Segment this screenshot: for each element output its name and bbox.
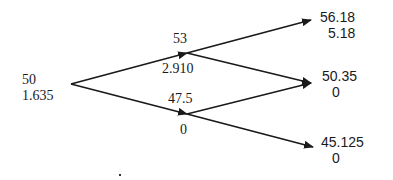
root-value: 1.635 [22, 89, 54, 103]
downdown-price: 45.125 [321, 135, 364, 149]
down-value: 0 [180, 123, 187, 137]
edge-down-downdown [187, 114, 313, 147]
downdown-value: 0 [332, 151, 340, 165]
updown-value: 0 [332, 85, 340, 99]
upup-price: 56.18 [320, 10, 355, 24]
root-price: 50 [22, 73, 36, 87]
edge-up-updown [187, 53, 311, 83]
upup-value: 5.18 [328, 26, 355, 40]
edge-down-updown [187, 83, 311, 114]
stray-dot [119, 174, 121, 176]
down-price: 47.5 [168, 92, 193, 106]
up-value: 2.910 [162, 62, 194, 76]
up-price: 53 [173, 32, 187, 46]
updown-price: 50.35 [322, 69, 357, 83]
binomial-tree-diagram: 50 1.635 53 2.910 47.5 0 56.18 5.18 50.3… [0, 0, 393, 180]
edge-up-upup [187, 20, 311, 53]
